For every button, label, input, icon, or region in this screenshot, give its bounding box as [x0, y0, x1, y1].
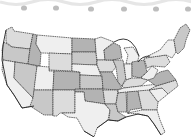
state-montana [36, 35, 72, 54]
state-mississippi [116, 92, 127, 112]
states-layer [2, 24, 190, 137]
state-wyoming [49, 53, 72, 71]
state-florida [128, 110, 165, 135]
decorative-border [0, 0, 191, 12]
border-dot [88, 6, 94, 11]
border-wave [0, 0, 191, 5]
state-new-mexico [53, 90, 75, 116]
state-north-dakota [72, 38, 96, 52]
state-arkansas [103, 90, 118, 104]
state-south-dakota [72, 52, 97, 65]
border-dot [53, 5, 59, 10]
state-arizona [30, 90, 53, 115]
border-dot [21, 5, 27, 10]
state-iowa [97, 60, 116, 72]
state-new-york [146, 40, 176, 58]
state-new-england [174, 24, 190, 54]
border-dot [121, 6, 127, 11]
state-kansas [80, 75, 103, 89]
border-dot [185, 6, 191, 11]
state-colorado [53, 71, 80, 90]
border-dot [153, 6, 159, 11]
us-map [0, 0, 191, 137]
